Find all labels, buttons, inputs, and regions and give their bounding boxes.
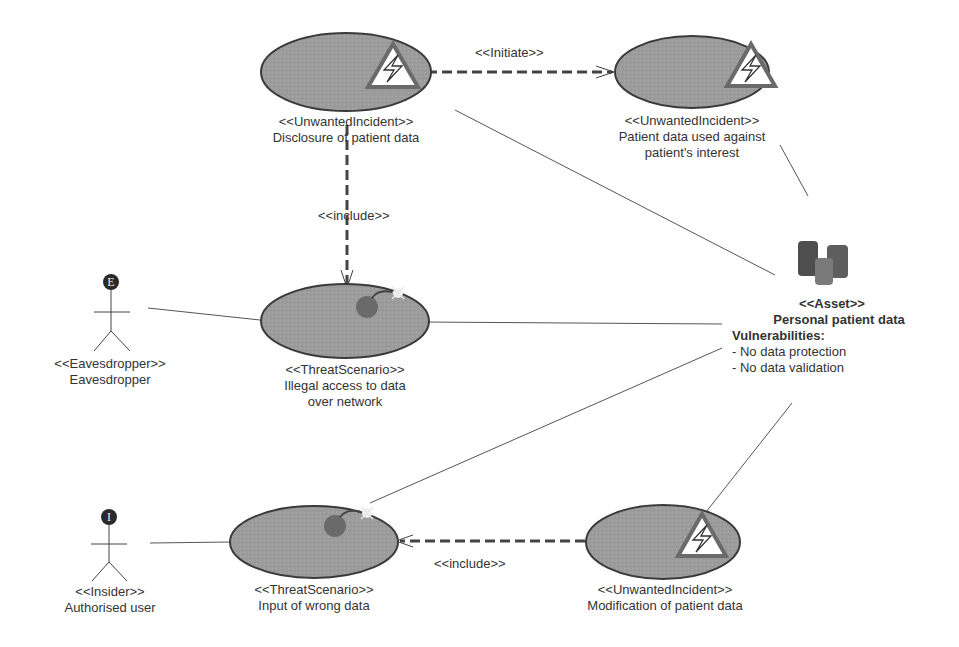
vulnerabilities-title: Vulnerabilities: [732,328,932,344]
line-insider-inputwrong [150,542,230,543]
node-name: Authorised user [40,600,180,616]
node-name: Eavesdropper [40,372,180,388]
stereotype: <<UnwantedIncident>> [560,582,770,598]
eavesdropper-label: <<Eavesdropper>> Eavesdropper [40,356,180,388]
vulnerability-item: - No data validation [732,360,932,376]
node-name: Modification of patient data [560,598,770,614]
node-name-line1: Patient data used against [592,129,792,145]
initiate-label: <<Initiate>> [475,45,544,60]
input-wrong-label: <<ThreatScenario>> Input of wrong data [214,582,414,614]
stereotype: <<ThreatScenario>> [245,362,445,378]
node-name-line2: over network [245,394,445,410]
line-illegalaccess-asset [420,322,722,324]
association-lines [148,110,808,543]
include-label-bottom: <<include>> [434,556,506,571]
stereotype: <<UnwantedIncident>> [592,113,792,129]
stereotype: <<UnwantedIncident>> [246,114,446,130]
illegal-access-label: <<ThreatScenario>> Illegal access to dat… [245,362,445,410]
include-arrow-top [341,125,353,288]
stereotype: <<Eavesdropper>> [40,356,180,372]
node-name-line1: Illegal access to data [245,378,445,394]
initiate-arrow [427,66,614,78]
unwanted-incident-used-against[interactable] [615,36,775,108]
used-against-label: <<UnwantedIncident>> Patient data used a… [592,113,792,161]
stereotype: <<ThreatScenario>> [214,582,414,598]
threat-scenario-input-wrong[interactable] [230,506,398,578]
modification-label: <<UnwantedIncident>> Modification of pat… [560,582,770,614]
node-name-line2: patient's interest [592,145,792,161]
vulnerability-item: - No data protection [732,344,932,360]
asset-name: Personal patient data [732,312,932,328]
asset-stereotype: <<Asset>> [732,296,932,312]
node-name: Input of wrong data [214,598,414,614]
insider-badge: I [103,509,115,525]
line-modification-asset [706,403,792,512]
line-eavesdropper-illegalaccess [148,308,260,320]
asset-label: <<Asset>> Personal patient data Vulnerab… [732,296,932,376]
threat-scenario-illegal-access[interactable] [261,284,429,358]
node-name: Disclosure of patient data [246,130,446,146]
unwanted-incident-modification[interactable] [586,505,740,579]
unwanted-incident-disclosure[interactable] [261,33,431,111]
include-label-top: <<include>> [318,208,390,223]
stereotype: <<Insider>> [40,584,180,600]
disclosure-label: <<UnwantedIncident>> Disclosure of patie… [246,114,446,146]
include-arrow-bottom [396,535,585,547]
asset-coins-icon [798,241,848,285]
insider-label: <<Insider>> Authorised user [40,584,180,616]
eavesdropper-badge: E [105,274,117,290]
